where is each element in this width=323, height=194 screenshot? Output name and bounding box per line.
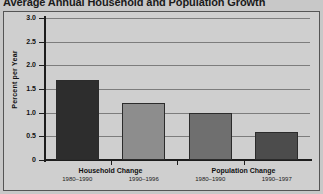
chart-title: Average Annual Household and Population … xyxy=(3,0,319,10)
bar xyxy=(189,113,232,160)
x-tick-mark xyxy=(244,161,245,165)
bar xyxy=(56,80,99,160)
y-tick-label: 3.0 xyxy=(10,14,36,21)
bar-period-label: 1990–1997 xyxy=(247,176,307,183)
y-tick-label: 1.5 xyxy=(10,85,36,92)
group-label: Population Change xyxy=(184,167,304,175)
y-tick-label: 0 xyxy=(10,156,36,163)
bar-period-label: 1980–1990 xyxy=(180,176,240,183)
y-tick-label: 2.0 xyxy=(10,61,36,68)
chart-figure: Average Annual Household and Population … xyxy=(0,0,323,194)
bar-period-label: 1980–1990 xyxy=(47,176,107,183)
x-tick-mark xyxy=(111,161,112,165)
plot-area xyxy=(44,18,310,160)
bar-period-label: 1990–1996 xyxy=(114,176,174,183)
y-tick-label: 2.5 xyxy=(10,38,36,45)
x-tick-mark xyxy=(177,161,178,165)
bar xyxy=(122,103,165,160)
y-tick-label: 1.0 xyxy=(10,109,36,116)
y-axis-title: Percent per Year xyxy=(11,45,18,115)
y-tick-label: 0.5 xyxy=(10,132,36,139)
group-label: Household Change xyxy=(51,167,171,175)
bar xyxy=(255,132,298,160)
